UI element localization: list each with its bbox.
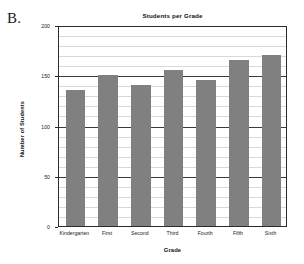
y-tick-label: 0 (10, 224, 50, 230)
figure-panel-b: B. Students per Grade Number of Students… (0, 0, 304, 264)
x-tick-label: Fourth (198, 230, 213, 236)
y-tick-label: 150 (10, 73, 50, 79)
x-tick-label: Second (131, 230, 149, 236)
bar (66, 90, 86, 226)
x-tick-label: Kindergarten (59, 230, 89, 236)
y-tick-mark (55, 227, 58, 228)
bar (98, 75, 118, 226)
plot-area (58, 26, 287, 227)
bar (229, 60, 249, 226)
y-axis: Number of Students 050100150200 (0, 0, 58, 264)
y-tick-label: 200 (10, 23, 50, 29)
x-tick-label: First (102, 230, 112, 236)
x-tick-label: Third (167, 230, 179, 236)
chart-title: Students per Grade (58, 12, 287, 19)
y-tick-label: 50 (10, 174, 50, 180)
bar (262, 55, 282, 226)
x-tick-label: Fifth (233, 230, 243, 236)
bar-series (59, 27, 286, 226)
x-tick-label: Sixth (265, 230, 277, 236)
bar (131, 85, 151, 226)
bar (164, 70, 184, 226)
bar (196, 80, 216, 226)
x-axis-tick-labels: KindergartenFirstSecondThirdFourthFifthS… (58, 230, 287, 242)
y-tick-label: 100 (10, 124, 50, 130)
x-axis-title: Grade (58, 247, 287, 253)
